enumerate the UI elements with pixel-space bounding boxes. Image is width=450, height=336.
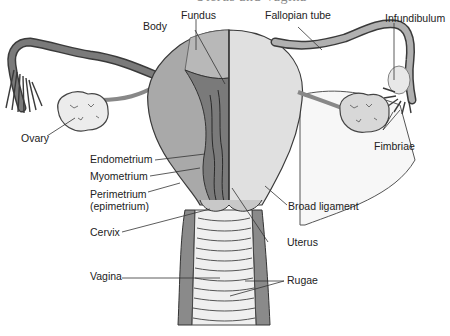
label-epimetrium: (epimetrium) <box>90 200 149 212</box>
label-fallopian-tube: Fallopian tube <box>265 9 331 21</box>
label-infundibulum: Infundibulum <box>385 12 445 24</box>
diagram-illustration <box>0 0 450 336</box>
label-fundus: Fundus <box>181 9 216 21</box>
uterus-right-half <box>229 30 303 205</box>
label-body: Body <box>143 20 167 32</box>
label-myometrium: Myometrium <box>90 170 148 182</box>
label-perimetrium: Perimetrium <box>90 188 147 200</box>
label-uterus: Uterus <box>287 236 318 248</box>
label-broad-ligament: Broad ligament <box>288 200 359 212</box>
left-ovary-shape <box>58 92 109 131</box>
label-vagina: Vagina <box>90 270 122 282</box>
anatomy-diagram: Uterus and Vagina <box>0 0 450 336</box>
label-rugae: Rugae <box>287 274 318 286</box>
label-cervix: Cervix <box>90 226 120 238</box>
label-ovary: Ovary <box>21 132 49 144</box>
fundus-region <box>185 30 229 79</box>
infundibulum-shape <box>388 66 410 94</box>
label-endometrium: Endometrium <box>90 153 152 165</box>
label-fimbriae: Fimbriae <box>374 140 415 152</box>
vagina-lumen <box>192 210 256 325</box>
right-ovary-shape <box>340 93 389 132</box>
